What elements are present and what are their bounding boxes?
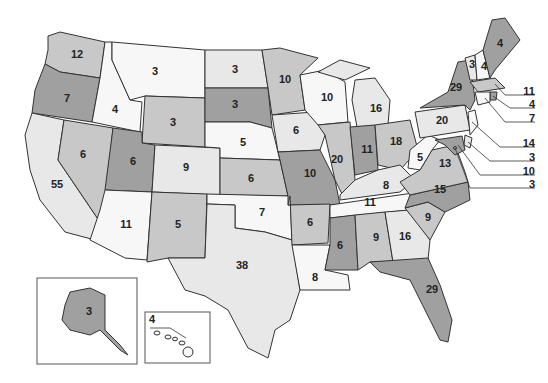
state-label-MN: 10: [279, 73, 291, 85]
state-CT[interactable]: [475, 92, 490, 105]
state-label-KY: 8: [383, 179, 389, 191]
state-label-HI: 4: [149, 313, 156, 325]
state-label-ME: 4: [497, 37, 504, 49]
state-label-TN: 11: [364, 196, 376, 208]
callout-label-MD: 10: [523, 165, 535, 177]
state-label-CA: 55: [51, 178, 63, 190]
state-label-UT: 6: [130, 155, 136, 167]
callout-label-CT: 7: [529, 112, 535, 124]
state-label-NH: 4: [481, 60, 488, 72]
callout-label-DC: 3: [529, 178, 535, 190]
state-label-GA: 16: [399, 230, 411, 242]
state-label-MS: 6: [337, 239, 343, 251]
state-label-SC: 9: [425, 211, 431, 223]
state-label-CO: 9: [183, 161, 189, 173]
state-label-TX: 38: [236, 259, 248, 271]
state-label-MO: 10: [304, 167, 316, 179]
state-label-IA: 6: [293, 124, 299, 136]
state-label-MT: 3: [152, 65, 158, 77]
state-label-SD: 3: [232, 98, 238, 110]
state-label-IL: 20: [331, 153, 343, 165]
state-DE[interactable]: [464, 135, 472, 148]
state-label-ND: 3: [232, 63, 238, 75]
state-label-AR: 6: [307, 216, 313, 228]
state-label-ID: 4: [112, 103, 119, 115]
state-label-WV: 5: [417, 151, 423, 163]
state-FL[interactable]: [370, 258, 452, 342]
callout-label-RI: 4: [529, 98, 536, 110]
us-electoral-map: 1275546336119533567381061068102016111881…: [0, 0, 548, 383]
state-label-VT: 3: [469, 58, 475, 70]
callout-label-MA: 11: [523, 85, 535, 97]
state-label-OK: 7: [259, 206, 265, 218]
callout-label-NJ: 14: [523, 137, 536, 149]
state-label-IN: 11: [361, 143, 373, 155]
state-label-FL: 29: [426, 283, 438, 295]
state-MT[interactable]: [112, 42, 205, 100]
state-label-NC: 15: [434, 183, 446, 195]
state-label-NE: 5: [240, 136, 246, 148]
state-label-WI: 10: [321, 91, 333, 103]
state-label-WY: 3: [170, 116, 176, 128]
callout-label-DE: 3: [529, 151, 535, 163]
state-label-PA: 20: [436, 114, 448, 126]
state-label-MI: 16: [370, 102, 382, 114]
state-label-OR: 7: [64, 92, 70, 104]
state-label-VA: 13: [439, 157, 451, 169]
state-label-LA: 8: [312, 271, 318, 283]
state-label-OH: 18: [390, 135, 402, 147]
state-label-AK: 3: [86, 305, 92, 317]
state-label-NV: 6: [80, 148, 86, 160]
state-label-AL: 9: [373, 231, 379, 243]
state-label-WA: 12: [71, 48, 83, 60]
state-label-NM: 5: [175, 218, 181, 230]
state-label-KS: 6: [248, 172, 254, 184]
state-label-AZ: 11: [120, 218, 132, 230]
state-label-NY: 29: [450, 81, 462, 93]
